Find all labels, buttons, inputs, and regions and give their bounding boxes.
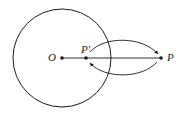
inversion-diagram: O P′ P <box>0 0 182 122</box>
label-p: P <box>167 52 174 63</box>
arrow-p-to-pprime <box>90 62 157 75</box>
point-p-dot <box>159 56 163 60</box>
label-o: O <box>48 52 56 63</box>
label-pprime: P′ <box>81 44 90 55</box>
point-o-dot <box>60 56 64 60</box>
point-pprime-dot <box>84 56 88 60</box>
arrow-pprime-to-p <box>90 40 158 54</box>
diagram-svg <box>0 0 182 122</box>
